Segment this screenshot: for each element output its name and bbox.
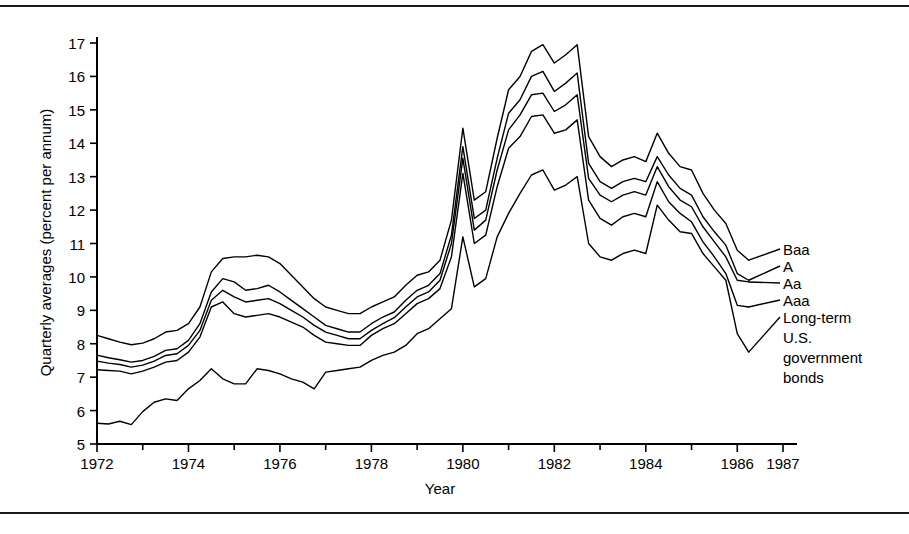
series-label-govt-line-2: U.S. <box>783 330 812 347</box>
x-tick-label-1982: 1982 <box>538 456 571 471</box>
x-tick-label-1980: 1980 <box>446 456 479 471</box>
leader-line-baa <box>749 249 780 260</box>
series-label-govt-line-1: Long-term <box>783 310 851 327</box>
x-tick-label-1986: 1986 <box>721 456 754 471</box>
y-tick-label-5: 5 <box>39 437 85 452</box>
series-line-aaa <box>97 115 749 374</box>
chart-plot-area: 171615141312111098765 197219741976197819… <box>0 10 909 510</box>
leader-line-long-term-u-s-government-bonds <box>749 317 780 352</box>
series-label-baa: Baa <box>783 242 810 259</box>
series-line-baa <box>97 45 749 345</box>
top-divider-rule <box>0 5 909 7</box>
series-label-govt-line-4: bonds <box>783 370 824 387</box>
line-chart-svg <box>0 10 909 510</box>
series-label-aaa: Aaa <box>783 293 810 310</box>
tick-marks-group <box>90 43 783 452</box>
leader-line-aaa <box>749 300 780 307</box>
legend-leader-lines-group <box>749 249 780 352</box>
series-label-aa: Aa <box>783 276 801 293</box>
x-tick-label-1978: 1978 <box>355 456 388 471</box>
x-tick-label-1976: 1976 <box>263 456 296 471</box>
y-tick-label-17: 17 <box>39 36 85 51</box>
axes-group <box>97 37 797 444</box>
leader-line-a <box>749 266 780 280</box>
x-tick-label-1972: 1972 <box>80 456 113 471</box>
series-label-a: A <box>783 259 793 276</box>
x-tick-label-1987: 1987 <box>766 456 799 471</box>
leader-line-aa <box>749 282 780 283</box>
x-tick-label-1974: 1974 <box>172 456 205 471</box>
series-line-a <box>97 71 749 362</box>
x-axis-title: Year <box>425 480 455 497</box>
series-label-govt-line-3: government <box>783 350 862 367</box>
series-line-long-term-u-s-government-bonds <box>97 170 749 425</box>
x-tick-label-1984: 1984 <box>629 456 662 471</box>
data-series-group <box>97 45 749 425</box>
y-axis-title: Quarterly averages (percent per annum) <box>37 77 54 407</box>
figure-container: 171615141312111098765 197219741976197819… <box>0 0 909 534</box>
bottom-divider-rule <box>0 512 909 514</box>
